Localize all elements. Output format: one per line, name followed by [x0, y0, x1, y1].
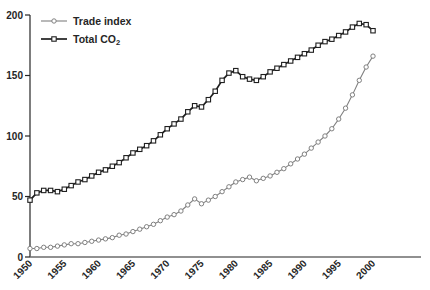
total-co2-series-point — [110, 164, 114, 168]
total-co2-series-point — [337, 33, 341, 37]
trade-index-series-point — [151, 222, 155, 226]
total-co2-series-point — [371, 29, 375, 33]
total-co2-series-point — [117, 160, 121, 164]
total-co2-series-point — [220, 78, 224, 82]
total-co2-series-point — [199, 105, 203, 109]
total-co2-series-point — [28, 198, 32, 202]
total-co2-series-point — [234, 68, 238, 72]
trade-index-series-point — [199, 202, 203, 206]
total-co2-series-point — [83, 177, 87, 181]
total-co2-series-point — [206, 98, 210, 102]
trade-index-series-point — [309, 146, 313, 150]
y-tick-label: 150 — [6, 70, 23, 81]
x-tick-label: 2000 — [354, 257, 378, 281]
trade-index-series-point — [55, 244, 59, 248]
total-co2-series-point — [165, 127, 169, 131]
trade-index-series-point — [62, 243, 66, 247]
y-tick-label: 100 — [6, 131, 23, 142]
total-co2-series-point — [350, 25, 354, 29]
trade-index-series-point — [288, 162, 292, 166]
total-co2-series-point — [213, 89, 217, 93]
total-co2-series-point — [357, 21, 361, 25]
total-co2-series-point — [275, 66, 279, 70]
trade-index-series-point — [186, 203, 190, 207]
total-co2-series-point — [343, 30, 347, 34]
total-co2-series-point — [42, 188, 46, 192]
trade-index-series-point — [124, 232, 128, 236]
total-co2-series-point — [323, 39, 327, 43]
total-co2-series-point — [144, 143, 148, 147]
total-co2-series-point — [151, 139, 155, 143]
total-co2-series-point — [186, 110, 190, 114]
total-co2-series-point — [48, 188, 52, 192]
total-co2-series-point — [96, 170, 100, 174]
trade-index-series-point — [42, 245, 46, 249]
trade-index-series-point — [192, 197, 196, 201]
total-co2-series-point — [124, 156, 128, 160]
x-tick-label: 1960 — [80, 257, 104, 281]
trade-index-series-point — [110, 235, 114, 239]
total-co2-series-point — [316, 43, 320, 47]
trade-index-series-point — [138, 227, 142, 231]
total-co2-series-point — [192, 104, 196, 108]
total-co2-series-point — [62, 187, 66, 191]
legend: Trade indexTotal CO2 — [41, 15, 132, 48]
legend-label: Trade index — [73, 15, 132, 27]
total-co2-series-point — [179, 117, 183, 121]
total-co2-series-point — [55, 189, 59, 193]
total-co2-series-point — [309, 48, 313, 52]
x-tick-label: 1975 — [182, 257, 206, 281]
trade-index-series-point — [302, 152, 306, 156]
total-co2-series-point — [330, 37, 334, 41]
trade-index-series-point — [179, 209, 183, 213]
total-co2-series-point — [254, 78, 258, 82]
total-co2-series-point — [282, 62, 286, 66]
trade-index-series-point — [76, 241, 80, 245]
trade-index-series — [28, 54, 375, 251]
total-co2-series-point — [364, 22, 368, 26]
trade-index-series-point — [90, 239, 94, 243]
trade-index-series-point — [350, 93, 354, 97]
x-tick-label: 1955 — [45, 257, 69, 281]
trade-index-series-point — [364, 65, 368, 69]
total-co2-series-point — [172, 122, 176, 126]
x-tick-label: 1995 — [320, 257, 344, 281]
x-tick-label: 1985 — [251, 257, 275, 281]
total-co2-series-point — [131, 151, 135, 155]
trade-index-series-point — [83, 240, 87, 244]
trade-index-series-point — [268, 174, 272, 178]
total-co2-series-line — [30, 23, 373, 200]
x-tick-label: 1950 — [11, 257, 35, 281]
chart-canvas: 0501001502001950195519601965197019751980… — [0, 0, 430, 290]
trade-index-series-point — [103, 237, 107, 241]
trade-index-series-point — [337, 117, 341, 121]
trade-index-series-point — [172, 212, 176, 216]
trade-index-series-point — [323, 134, 327, 138]
trade-index-series-point — [261, 176, 265, 180]
trade-index-series-point — [234, 180, 238, 184]
total-co2-series-point — [261, 75, 265, 79]
trade-index-series-point — [240, 177, 244, 181]
trade-co2-line-chart: 0501001502001950195519601965197019751980… — [0, 0, 430, 290]
x-tick-label: 1980 — [217, 257, 241, 281]
legend-square-marker-icon — [52, 37, 56, 41]
trade-index-series-point — [330, 127, 334, 131]
total-co2-series-point — [247, 77, 251, 81]
y-tick-label: 200 — [6, 10, 23, 21]
total-co2-series-point — [69, 183, 73, 187]
total-co2-series — [28, 21, 375, 202]
trade-index-series-line — [30, 56, 373, 248]
total-co2-series-point — [227, 71, 231, 75]
trade-index-series-point — [35, 246, 39, 250]
trade-index-series-point — [295, 157, 299, 161]
trade-index-series-point — [343, 106, 347, 110]
trade-index-series-point — [144, 225, 148, 229]
trade-index-series-point — [117, 233, 121, 237]
total-co2-series-point — [268, 70, 272, 74]
legend-circle-marker-icon — [52, 19, 56, 23]
trade-index-series-point — [213, 194, 217, 198]
trade-index-series-point — [220, 189, 224, 193]
trade-index-series-point — [254, 179, 258, 183]
trade-index-series-point — [275, 170, 279, 174]
trade-index-series-point — [69, 241, 73, 245]
